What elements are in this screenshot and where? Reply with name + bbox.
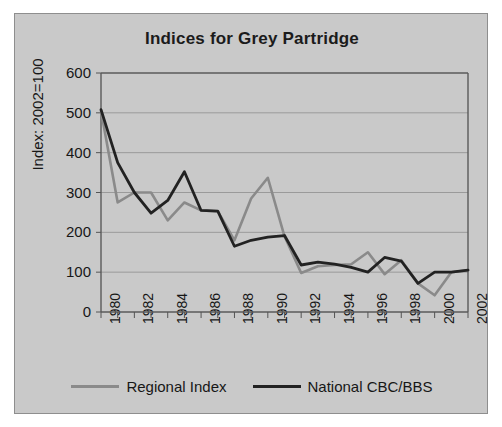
legend-line-swatch bbox=[253, 385, 301, 388]
chart-figure: Indices for Grey Partridge Index: 2002=1… bbox=[14, 13, 488, 414]
x-axis-ticks bbox=[101, 312, 468, 318]
legend-entry: Regional Index bbox=[71, 378, 226, 395]
legend-line-swatch bbox=[71, 385, 119, 388]
legend-label: National CBC/BBS bbox=[308, 378, 433, 395]
plot-area bbox=[15, 14, 489, 415]
series-lines bbox=[101, 110, 468, 296]
chart-legend: Regional IndexNational CBC/BBS bbox=[15, 378, 489, 395]
legend-entry: National CBC/BBS bbox=[253, 378, 433, 395]
legend-label: Regional Index bbox=[126, 378, 226, 395]
gridlines bbox=[101, 113, 468, 272]
